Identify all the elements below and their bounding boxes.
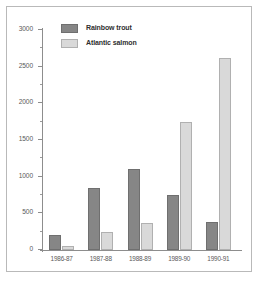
x-axis-label-1986-87: 1986-87 bbox=[42, 255, 82, 262]
legend-swatch-trout bbox=[61, 24, 78, 33]
x-axis-label-1989-90: 1989-90 bbox=[159, 255, 199, 262]
y-tick-minor bbox=[40, 84, 42, 85]
y-tick-0: 0 bbox=[38, 249, 42, 250]
x-axis-line bbox=[40, 250, 242, 251]
bar-salmon-1990-91 bbox=[219, 58, 231, 250]
y-tick-3000: 3000 bbox=[38, 29, 42, 30]
y-tick-minor bbox=[40, 194, 42, 195]
bar-trout-1988-89 bbox=[128, 169, 140, 250]
y-tick-2000: 2000 bbox=[38, 102, 42, 103]
y-tick-minor bbox=[40, 121, 42, 122]
y-tick-label: 2500 bbox=[19, 63, 33, 70]
x-axis-label-1988-89: 1988-89 bbox=[120, 255, 160, 262]
bar-trout-1986-87 bbox=[49, 235, 61, 250]
y-tick-minor bbox=[40, 231, 42, 232]
y-tick-minor bbox=[40, 47, 42, 48]
y-tick-label: 3000 bbox=[19, 26, 33, 33]
chart-figure: 050010001500200025003000 1986-871987-881… bbox=[0, 0, 259, 289]
y-tick-label: 1500 bbox=[19, 136, 33, 143]
bar-salmon-1988-89 bbox=[141, 223, 153, 250]
legend-item-trout: Rainbow trout bbox=[61, 22, 166, 34]
bar-trout-1990-91 bbox=[206, 222, 218, 250]
x-axis-label-1990-91: 1990-91 bbox=[198, 255, 238, 262]
y-tick-500: 500 bbox=[38, 212, 42, 213]
plot-area: 050010001500200025003000 bbox=[42, 30, 238, 250]
y-tick-label: 2000 bbox=[19, 99, 33, 106]
bar-salmon-1989-90 bbox=[180, 122, 192, 250]
y-tick-minor bbox=[40, 157, 42, 158]
y-tick-2500: 2500 bbox=[38, 66, 42, 67]
y-tick-label: 1000 bbox=[19, 173, 33, 180]
y-tick-1500: 1500 bbox=[38, 139, 42, 140]
legend-label: Rainbow trout bbox=[86, 24, 132, 32]
bar-salmon-1987-88 bbox=[101, 232, 113, 250]
y-tick-label: 500 bbox=[22, 209, 33, 216]
bar-salmon-1986-87 bbox=[62, 246, 74, 250]
y-tick-label: 0 bbox=[29, 246, 33, 253]
x-axis-label-1987-88: 1987-88 bbox=[81, 255, 121, 262]
legend-label: Atlantic salmon bbox=[86, 39, 137, 47]
bar-trout-1987-88 bbox=[88, 188, 100, 250]
legend-swatch-salmon bbox=[61, 39, 78, 48]
y-tick-1000: 1000 bbox=[38, 176, 42, 177]
legend-item-salmon: Atlantic salmon bbox=[61, 37, 166, 49]
chart-legend: Rainbow troutAtlantic salmon bbox=[61, 22, 166, 52]
bar-trout-1989-90 bbox=[167, 195, 179, 250]
